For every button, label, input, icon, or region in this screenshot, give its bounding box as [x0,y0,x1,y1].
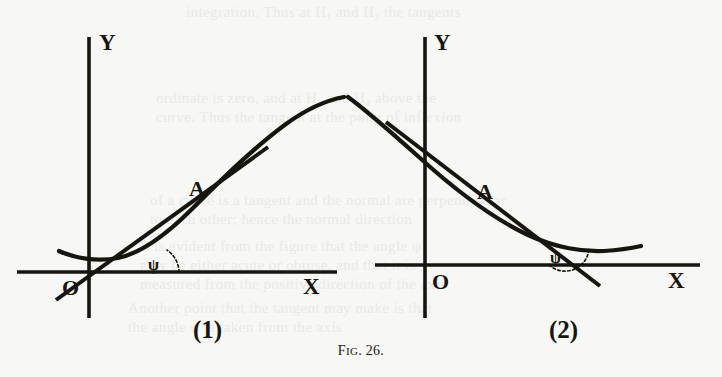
panel-1-point-a-label: A [189,176,205,201]
panel-1-angle-label: ψ [148,256,159,274]
figure-caption-suffix: . 26. [358,343,384,358]
panel-2-origin-label: O [432,269,449,294]
panel-2-curve [348,97,641,251]
panel-2-x-axis-label: X [668,268,685,293]
panel-1-x-axis-label: X [303,274,320,299]
panel-2-angle-label: ψ [550,249,561,267]
panel-2-y-axis-label: Y [434,30,451,55]
figure-26-drawing: Y X O A ψ (1) Y X O A ψ (2) [0,0,722,377]
panel-2-number-label: (2) [549,316,578,344]
figure-caption: FIG. 26. [0,343,722,359]
figure-caption-smallcaps: IG [346,345,358,357]
figure-caption-prefix: F [338,343,346,358]
panel-1-y-axis-label: Y [99,30,116,55]
panel-1-angle-arc [167,250,179,272]
panel-2-point-a-label: A [477,179,493,204]
figure-page: integration. Thus at H₁ and H₂ the tange… [0,0,722,377]
panel-1-origin-label: O [62,275,79,300]
panel-1-group: Y X O A ψ (1) [17,30,344,344]
panel-2-group: Y X O A ψ (2) [348,30,700,344]
panel-2-tangent [386,122,600,286]
panel-1-number-label: (1) [193,316,222,344]
